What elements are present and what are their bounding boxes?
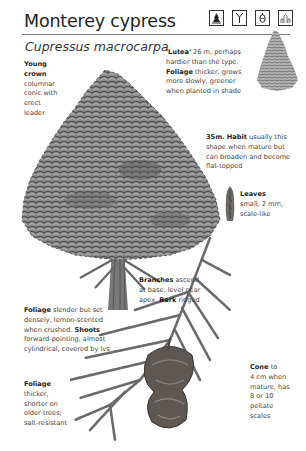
note-foliage-young: Foliage slender but set densely, lemon-s… (24, 306, 114, 355)
coastal-tolerance-icon (278, 10, 293, 26)
title-divider (22, 34, 290, 35)
habitat-icons (209, 10, 293, 26)
note-young-crown: Young crown columnar conic with erect le… (24, 60, 84, 119)
branch-habit-icon (232, 10, 247, 26)
note-cone: Cone to 4 cm when mature, has 8 or 10 pe… (250, 363, 306, 422)
latin-name: Cupressus macrocarpa (25, 39, 169, 54)
note-branches: Branches ascend at base, level near apex… (139, 276, 219, 305)
note-habit: 35m. Habit usually this shape when matur… (206, 133, 306, 172)
note-foliage-old: Foliage thicker, shorter on older trees;… (24, 380, 84, 429)
lutea-tree-illustration (252, 28, 302, 93)
cone-icon (255, 10, 270, 26)
page-title: Monterey cypress (24, 11, 176, 31)
cone-illustration (144, 338, 193, 428)
evergreen-conifer-icon (209, 10, 224, 26)
note-leaves: Leaves small, 2 mm, scale-like (240, 190, 306, 219)
leaf-detail-illustration (222, 185, 238, 223)
note-lutea: 'Lutea' 26 m, perhaps hardier than the t… (166, 48, 256, 97)
